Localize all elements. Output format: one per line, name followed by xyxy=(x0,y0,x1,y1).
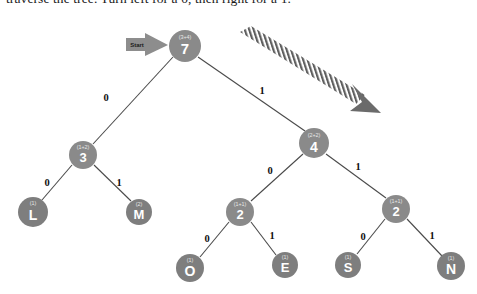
edge-label-root-right: 1 xyxy=(259,85,264,96)
node-n4-value: 4 xyxy=(310,139,318,155)
node-leaf-n-value: N xyxy=(446,261,456,277)
node-leaf-o-value: O xyxy=(185,263,196,279)
node-leaf-e-value: E xyxy=(281,260,290,275)
node-leaf-l-value: L xyxy=(29,207,38,223)
edge-label-root-left: 0 xyxy=(103,92,108,103)
node-n2a-value: 2 xyxy=(236,207,243,222)
edge-label-n3-right: 1 xyxy=(116,177,121,188)
huffman-tree-diagram: 0 1 0 1 0 1 0 1 0 1 Start (3+4) 7 (1+2) … xyxy=(0,0,477,294)
node-leaf-o[interactable]: (1) O xyxy=(176,254,204,282)
node-n2b-value: 2 xyxy=(392,204,399,219)
node-n2a[interactable]: (1+1) 2 xyxy=(226,198,254,226)
edge-label-n4-right: 1 xyxy=(355,161,360,172)
node-leaf-m-value: M xyxy=(134,207,145,222)
node-n2b[interactable]: (1+1) 2 xyxy=(382,195,410,223)
edge-label-n4-left: 0 xyxy=(267,165,272,176)
edge-label-n2a-left: 0 xyxy=(204,233,209,244)
node-leaf-s[interactable]: (1) S xyxy=(335,252,361,278)
node-root[interactable]: (3+4) 7 xyxy=(169,30,201,62)
edge-label-n2b-right: 1 xyxy=(429,230,434,241)
edge-label-n3-left: 0 xyxy=(44,177,49,188)
edge-label-n2b-left: 0 xyxy=(360,231,365,242)
edge-n4-n2a xyxy=(251,154,303,201)
hatched-diagonal-arrow-icon xyxy=(240,26,381,113)
node-n4[interactable]: (2+2) 4 xyxy=(299,128,329,158)
start-marker: Start xyxy=(126,33,168,56)
node-leaf-l-weight: (1) xyxy=(30,200,37,206)
edge-root-n4 xyxy=(198,57,305,131)
node-n4-weight: (2+2) xyxy=(308,132,321,138)
tree-edges xyxy=(42,57,442,257)
start-label: Start xyxy=(130,42,144,48)
edge-n2b-leafN xyxy=(407,219,442,256)
edge-n3-leafM xyxy=(94,165,131,201)
node-root-value: 7 xyxy=(181,40,189,57)
node-leaf-m[interactable]: (2) M xyxy=(126,199,152,225)
node-leaf-s-value: S xyxy=(344,260,353,275)
edge-label-n2a-right: 1 xyxy=(269,230,274,241)
tree-nodes: (3+4) 7 (1+2) 3 (2+2) 4 (1) L (2) M (1+1… xyxy=(18,30,465,282)
node-n3-value: 3 xyxy=(79,150,86,165)
node-leaf-l[interactable]: (1) L xyxy=(18,197,48,227)
node-leaf-e[interactable]: (1) E xyxy=(272,252,298,278)
node-leaf-n[interactable]: (1) N xyxy=(437,252,465,280)
right-arrow-icon xyxy=(145,33,168,56)
node-n3[interactable]: (1+2) 3 xyxy=(69,141,97,169)
